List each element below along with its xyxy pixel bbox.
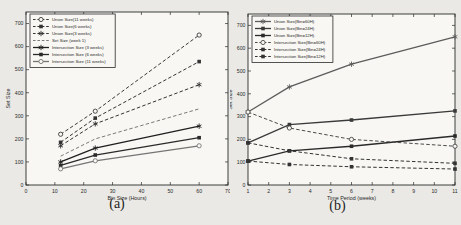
square-marker xyxy=(261,48,265,52)
y-tick-label: 200 xyxy=(237,136,246,142)
square-marker xyxy=(350,157,354,161)
circle-marker xyxy=(59,132,63,136)
legend-label: Union Size(11 weeks) xyxy=(52,17,94,22)
x-tick-label: 1 xyxy=(247,188,250,194)
x-tick-label: 50 xyxy=(167,188,173,194)
y-tick-label: 300 xyxy=(15,113,24,119)
square-marker xyxy=(197,136,201,140)
square-marker xyxy=(39,53,43,57)
y-tick-label: 300 xyxy=(237,113,246,119)
legend-label: Union Size(6 weeks) xyxy=(52,24,92,29)
square-marker xyxy=(261,34,265,38)
y-axis-label: Set Size xyxy=(230,89,233,109)
x-tick-label: 9 xyxy=(412,188,415,194)
y-tick-label: 600 xyxy=(237,45,246,51)
y-tick-label: 700 xyxy=(237,22,246,28)
square-marker xyxy=(453,167,457,171)
y-tick-label: 100 xyxy=(237,159,246,165)
square-marker xyxy=(453,162,457,166)
square-marker xyxy=(246,159,250,163)
x-tick-label: 6 xyxy=(350,188,353,194)
y-tick-label: 700 xyxy=(15,20,24,26)
line-chart-b: 12345678910110100200300400500600700Time … xyxy=(230,0,461,225)
subfigure-caption-a: (a) xyxy=(2,196,232,212)
y-tick-label: 0 xyxy=(21,182,24,188)
line-chart-a: 0102030405060700100200300400500600700Bin… xyxy=(0,0,230,225)
square-marker xyxy=(197,60,201,64)
x-tick-label: 30 xyxy=(110,188,116,194)
legend-label: Intersection Size (6 weeks) xyxy=(52,52,104,57)
legend-label: Intersection Size(Bin=60H) xyxy=(274,40,326,45)
y-tick-label: 100 xyxy=(15,159,24,165)
square-marker xyxy=(39,25,43,29)
x-tick-label: 11 xyxy=(452,188,457,194)
circle-marker xyxy=(39,59,43,63)
circle-marker xyxy=(261,40,265,44)
square-marker xyxy=(350,144,354,148)
square-marker xyxy=(453,134,457,138)
x-tick-label: 10 xyxy=(52,188,58,194)
legend-label: Intersection Size(Bin=12H) xyxy=(274,54,326,59)
square-marker xyxy=(288,163,292,167)
x-tick-label: 40 xyxy=(139,188,145,194)
legend-label: Union Size(Bin=12H) xyxy=(274,33,315,38)
y-tick-label: 600 xyxy=(15,43,24,49)
circle-marker xyxy=(197,144,201,148)
chart-panel-a: 0102030405060700100200300400500600700Bin… xyxy=(0,0,230,225)
legend-label: Set Size (week 1) xyxy=(52,38,86,43)
legend-label: Union Size(Bin=60H) xyxy=(274,19,315,24)
x-tick-label: 4 xyxy=(309,188,312,194)
legend-label: Union Size(Bin=24H) xyxy=(274,26,315,31)
y-tick-label: 400 xyxy=(237,91,246,97)
x-tick-label: 7 xyxy=(371,188,374,194)
y-axis-label: Set Size xyxy=(5,88,11,108)
square-marker xyxy=(261,55,265,59)
x-tick-label: 3 xyxy=(288,188,291,194)
circle-marker xyxy=(287,126,291,130)
square-marker xyxy=(453,109,457,113)
square-marker xyxy=(350,118,354,122)
square-marker xyxy=(93,153,97,157)
legend-label: Intersection Size(Bin=24H) xyxy=(274,47,326,52)
y-tick-label: 400 xyxy=(15,90,24,96)
x-tick-label: 2 xyxy=(267,188,270,194)
x-tick-label: 0 xyxy=(25,188,28,194)
circle-marker xyxy=(59,167,63,171)
x-tick-label: 20 xyxy=(81,188,87,194)
circle-marker xyxy=(246,110,250,114)
square-marker xyxy=(261,27,265,31)
square-marker xyxy=(350,165,354,169)
circle-marker xyxy=(39,17,43,21)
square-marker xyxy=(93,116,97,120)
x-tick-label: 60 xyxy=(196,188,202,194)
circle-marker xyxy=(349,137,353,141)
y-tick-label: 200 xyxy=(15,136,24,142)
legend-label: Union Size(3 weeks) xyxy=(52,31,92,36)
circle-marker xyxy=(453,144,457,148)
legend-label: Intersection Size (11 weeks) xyxy=(52,59,106,64)
circle-marker xyxy=(197,33,201,37)
y-tick-label: 0 xyxy=(243,182,246,188)
x-tick-label: 5 xyxy=(329,188,332,194)
chart-panel-b: 12345678910110100200300400500600700Time … xyxy=(230,0,461,225)
square-marker xyxy=(246,141,250,145)
square-marker xyxy=(288,149,292,153)
x-tick-label: 8 xyxy=(391,188,394,194)
y-tick-label: 500 xyxy=(237,68,246,74)
subfigure-caption-b: (b) xyxy=(222,198,453,214)
circle-marker xyxy=(93,109,97,113)
circle-marker xyxy=(93,159,97,163)
y-tick-label: 500 xyxy=(15,66,24,72)
x-tick-label: 10 xyxy=(431,188,437,194)
legend-label: Intersection Size (3 weeks) xyxy=(52,45,104,50)
